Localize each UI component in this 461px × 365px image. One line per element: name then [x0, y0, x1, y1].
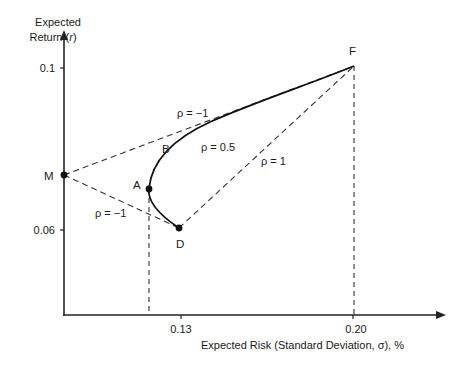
y-axis-title-line1: Expected — [35, 16, 81, 28]
point-M — [61, 172, 68, 179]
annotation-rho-minus1-lower: ρ = −1 — [95, 207, 126, 219]
x-tick-label-020: 0.20 — [345, 323, 366, 335]
y-tick-label-006: 0.06 — [34, 224, 55, 236]
line-rho-minus1-lower — [64, 175, 179, 228]
x-tick-label-013: 0.13 — [170, 323, 191, 335]
label-B: B — [162, 143, 170, 155]
label-D: D — [176, 238, 184, 250]
annotation-rho-1: ρ = 1 — [261, 155, 286, 167]
annotation-rho-0.5: ρ = 0.5 — [201, 141, 235, 153]
label-A: A — [133, 179, 141, 191]
point-A — [146, 186, 153, 193]
curve-rho-0.5 — [149, 66, 354, 228]
label-M: M — [44, 170, 54, 182]
x-axis-arrow-icon — [436, 311, 446, 319]
y-axis-title-line2: Return (r) — [29, 31, 76, 43]
label-F: F — [349, 45, 356, 57]
x-axis-title: Expected Risk (Standard Deviation, σ), % — [201, 339, 404, 351]
annotation-rho-minus1-upper: ρ = −1 — [177, 107, 208, 119]
efficient-frontier-diagram: Expected Return (r) Expected Risk (Stand… — [0, 0, 461, 365]
y-tick-label-01: 0.1 — [40, 62, 55, 74]
point-D — [176, 225, 183, 232]
